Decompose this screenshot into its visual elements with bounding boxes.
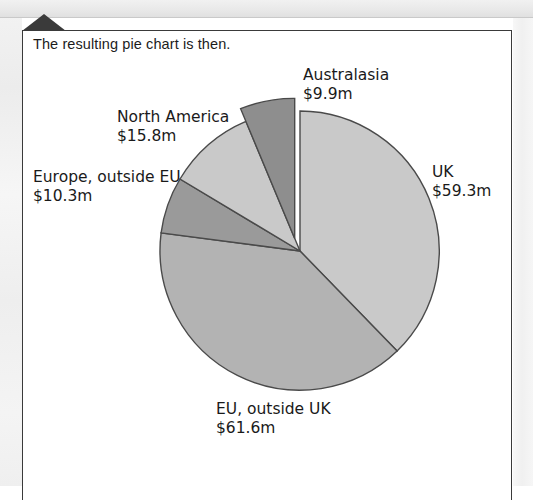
callout-box (22, 30, 512, 500)
page-margin-top (0, 0, 533, 17)
caption-text: The resulting pie chart is then. (33, 36, 230, 52)
page-margin-right (513, 18, 533, 486)
callout-pointer-triangle (22, 14, 66, 31)
page-margin-left (0, 0, 22, 486)
page-margin-top-rule (0, 17, 533, 18)
